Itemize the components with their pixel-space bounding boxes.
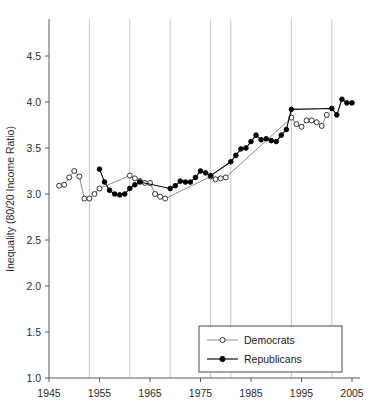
data-point-democrats-1949 (67, 175, 72, 180)
legend-label-republicans: Republicans (244, 353, 302, 365)
data-point-republicans-1961 (128, 186, 133, 191)
series-group (57, 97, 355, 201)
data-point-democrats-2000 (324, 112, 329, 117)
data-point-republicans-1976 (203, 171, 208, 176)
legend-box (199, 326, 342, 372)
data-point-democrats-1995 (299, 124, 304, 129)
data-point-democrats-1994 (294, 122, 299, 127)
y-tick-label-3.0: 3.0 (26, 188, 41, 200)
data-point-republicans-1973 (188, 180, 193, 185)
data-point-democrats-1954 (92, 192, 97, 197)
data-point-republicans-1985 (249, 139, 254, 144)
filled-circle-icon (220, 356, 225, 361)
data-point-republicans-1987 (259, 137, 264, 142)
x-tick-label-1995: 1995 (290, 387, 314, 399)
data-point-democrats-1951 (77, 174, 82, 179)
x-tick-label-1955: 1955 (88, 387, 112, 399)
data-point-democrats-1999 (319, 123, 324, 128)
data-point-republicans-1957 (107, 188, 112, 193)
data-point-republicans-2004 (345, 101, 350, 106)
data-point-republicans-1992 (284, 127, 289, 132)
data-point-republicans-1969 (168, 186, 173, 191)
data-point-republicans-1963 (138, 180, 143, 185)
y-tick-label-2.5: 2.5 (26, 234, 41, 246)
y-tick-label-1.5: 1.5 (26, 326, 41, 338)
data-point-republicans-1991 (279, 133, 284, 138)
open-circle-icon (220, 337, 225, 342)
data-point-republicans-1974 (193, 175, 198, 180)
x-tick-label-1985: 1985 (239, 387, 263, 399)
data-point-republicans-1984 (244, 146, 249, 151)
data-point-democrats-1952 (82, 196, 87, 201)
data-point-democrats-1997 (309, 118, 314, 123)
data-point-democrats-1968 (163, 196, 168, 201)
x-tick-label-1945: 1945 (37, 387, 61, 399)
data-point-democrats-1955 (97, 186, 102, 191)
data-point-democrats-1948 (62, 182, 67, 187)
y-tick-label-4.5: 4.5 (26, 50, 41, 62)
x-tick-label-1965: 1965 (138, 387, 162, 399)
data-point-democrats-1967 (158, 194, 163, 199)
data-point-democrats-1998 (314, 120, 319, 125)
y-axis-title: Inequality (80/20 Income Ratio) (4, 126, 16, 272)
data-point-republicans-1971 (178, 179, 183, 184)
data-point-republicans-1990 (274, 139, 279, 144)
data-point-democrats-1962 (132, 176, 137, 181)
y-tick-label-2.0: 2.0 (26, 280, 41, 292)
data-point-republicans-1956 (102, 180, 107, 185)
data-point-democrats-1953 (87, 196, 92, 201)
data-point-republicans-1981 (229, 160, 234, 165)
gridlines-group (89, 19, 331, 378)
data-point-republicans-1988 (264, 137, 269, 142)
data-point-republicans-2001 (330, 106, 335, 111)
data-point-republicans-1977 (208, 173, 213, 178)
data-point-democrats-1996 (304, 118, 309, 123)
data-point-republicans-1993 (289, 107, 294, 112)
data-point-republicans-2005 (350, 101, 355, 106)
data-point-republicans-2003 (340, 97, 345, 102)
data-point-republicans-1983 (239, 147, 244, 152)
data-point-republicans-1972 (183, 180, 188, 185)
data-point-republicans-1970 (173, 183, 178, 188)
data-point-republicans-1986 (254, 133, 259, 138)
data-point-democrats-1980 (223, 175, 228, 180)
x-tick-label-1975: 1975 (189, 387, 213, 399)
data-point-democrats-1966 (153, 192, 158, 197)
data-point-republicans-1960 (122, 192, 127, 197)
data-point-republicans-1955 (97, 167, 102, 172)
y-tick-label-1.0: 1.0 (26, 372, 41, 384)
legend: Democrats Republicans (199, 326, 342, 372)
data-point-republicans-1975 (198, 169, 203, 174)
inequality-line-chart: 1.01.52.02.53.03.54.04.5 194519551965197… (0, 0, 370, 411)
data-point-democrats-1978 (213, 177, 218, 182)
data-point-democrats-1950 (72, 169, 77, 174)
data-point-democrats-1979 (218, 176, 223, 181)
x-tick-label-2005: 2005 (340, 387, 364, 399)
y-tick-label-3.5: 3.5 (26, 142, 41, 154)
data-point-democrats-1961 (127, 173, 132, 178)
x-ticks-group: 1945195519651975198519952005 (37, 378, 364, 399)
data-point-democrats-1947 (57, 183, 62, 188)
y-ticks-group: 1.01.52.02.53.03.54.04.5 (26, 50, 49, 384)
y-tick-label-4.0: 4.0 (26, 96, 41, 108)
chart-container: 1.01.52.02.53.03.54.04.5 194519551965197… (0, 0, 370, 411)
axes-group (49, 19, 360, 378)
legend-label-democrats: Democrats (244, 334, 295, 346)
data-point-republicans-2002 (335, 113, 340, 118)
data-point-republicans-1959 (117, 193, 122, 198)
data-point-republicans-1962 (133, 183, 138, 188)
data-point-republicans-1989 (269, 138, 274, 143)
data-point-republicans-1958 (112, 192, 117, 197)
data-point-republicans-1982 (234, 153, 239, 158)
